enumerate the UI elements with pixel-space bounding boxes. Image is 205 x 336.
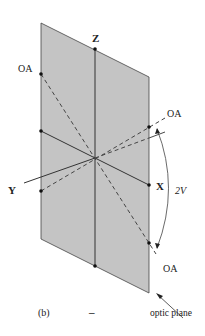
x-axis-label: X (156, 180, 164, 192)
panel-label: (b) (38, 307, 50, 319)
sign-label: – (88, 306, 95, 318)
angle-2v-label: 2V (175, 185, 188, 196)
z-axis-label: Z (92, 32, 99, 44)
optic-axis-label-lower-right: OA (163, 263, 178, 274)
arc-arrowhead-bottom (155, 243, 160, 249)
optic-plane-diagram: Z X Y OA OA OA 2V (b) – optic plane (0, 0, 205, 336)
optic-axis-label-upper-left: OA (18, 63, 33, 74)
optic-axis-label-upper-right: OA (167, 108, 182, 119)
optic-plane-label: optic plane (150, 308, 192, 318)
arc-arrowhead-top (155, 128, 160, 134)
y-axis-label: Y (8, 184, 16, 196)
